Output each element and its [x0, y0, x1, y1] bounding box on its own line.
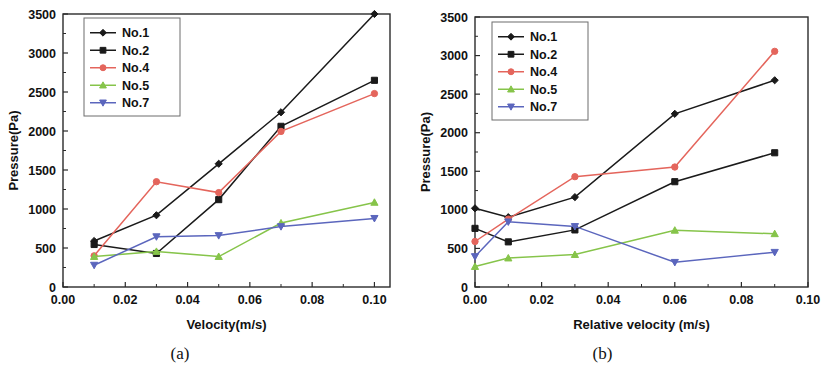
legend-label-no4: No.4 [122, 61, 149, 75]
x-tick-label: 0.06 [238, 293, 262, 307]
y-tick-label: 1500 [440, 165, 468, 179]
y-tick-label: 1000 [440, 203, 468, 217]
legend-label-no1: No.1 [122, 26, 149, 40]
series-marker-no4 [153, 179, 159, 185]
series-marker-no4 [278, 128, 284, 134]
series-marker-no4 [672, 164, 678, 170]
legend-label-no1: No.1 [530, 30, 557, 44]
series-line-no2 [475, 153, 775, 242]
x-tick-label: 0.08 [300, 293, 324, 307]
series-marker-no2 [371, 77, 377, 83]
y-tick-label: 3500 [28, 8, 56, 22]
chart-panel-b: 05001000150020002500300035000.000.020.04… [412, 0, 825, 366]
legend-label-no4: No.4 [530, 65, 557, 79]
series-marker-no1 [771, 77, 778, 84]
series-marker-no2 [216, 197, 222, 203]
x-tick-label: 0.04 [596, 293, 620, 307]
panel-a-caption: (a) [0, 344, 386, 364]
y-tick-label: 3000 [440, 49, 468, 63]
series-marker-no2 [772, 150, 778, 156]
x-tick-label: 0.10 [796, 293, 820, 307]
x-tick-label: 0.04 [175, 293, 199, 307]
y-tick-label: 2500 [28, 86, 56, 100]
x-tick-label: 0.08 [729, 293, 753, 307]
series-line-no7 [94, 218, 374, 265]
y-tick-label: 2000 [28, 125, 56, 139]
figure-container: 05001000150020002500300035000.000.020.04… [0, 0, 825, 366]
y-tick-label: 3000 [28, 47, 56, 61]
series-marker-no4 [216, 189, 222, 195]
y-tick-label: 2500 [440, 88, 468, 102]
y-tick-label: 1000 [28, 203, 56, 217]
series-marker-no7 [471, 254, 478, 260]
legend-marker-no4 [100, 65, 106, 71]
series-marker-no2 [672, 179, 678, 185]
series-marker-no4 [772, 48, 778, 54]
legend-label-no2: No.2 [122, 44, 149, 58]
series-marker-no2 [505, 239, 511, 245]
x-tick-label: 0.00 [51, 293, 75, 307]
y-tick-label: 500 [447, 242, 468, 256]
x-tick-label: 0.10 [362, 293, 386, 307]
y-tick-label: 500 [35, 242, 56, 256]
series-line-no5 [475, 230, 775, 266]
series-marker-no2 [472, 225, 478, 231]
y-tick-label: 1500 [28, 164, 56, 178]
series-line-no4 [94, 94, 374, 256]
series-marker-no1 [471, 205, 478, 212]
y-axis-title: Pressure(Pa) [418, 112, 433, 192]
series-marker-no4 [371, 90, 377, 96]
y-axis-title: Pressure(Pa) [6, 110, 21, 190]
chart-a-svg: 05001000150020002500300035000.000.020.04… [0, 0, 412, 340]
series-line-no5 [94, 202, 374, 256]
x-tick-label: 0.02 [529, 293, 553, 307]
series-marker-no5 [371, 199, 378, 205]
legend-label-no5: No.5 [530, 83, 557, 97]
panel-b-caption: (b) [396, 344, 809, 364]
x-axis-title: Velocity(m/s) [186, 317, 266, 332]
legend-marker-no2 [508, 51, 514, 57]
legend-label-no7: No.7 [530, 100, 557, 114]
series-marker-no4 [472, 238, 478, 244]
legend-marker-no2 [100, 47, 106, 53]
legend-label-no7: No.7 [122, 96, 149, 110]
legend-marker-no4 [508, 69, 514, 75]
y-tick-label: 2000 [440, 126, 468, 140]
series-marker-no4 [572, 174, 578, 180]
legend-label-no2: No.2 [530, 48, 557, 62]
chart-b-svg: 05001000150020002500300035000.000.020.04… [412, 0, 825, 340]
x-axis-title: Relative velocity (m/s) [573, 317, 710, 332]
series-marker-no2 [91, 241, 97, 247]
x-tick-label: 0.00 [463, 293, 487, 307]
x-tick-label: 0.02 [113, 293, 137, 307]
legend-label-no5: No.5 [122, 79, 149, 93]
chart-panel-a: 05001000150020002500300035000.000.020.04… [0, 0, 412, 366]
x-tick-label: 0.06 [663, 293, 687, 307]
y-tick-label: 3500 [440, 11, 468, 25]
series-marker-no7 [91, 262, 98, 268]
